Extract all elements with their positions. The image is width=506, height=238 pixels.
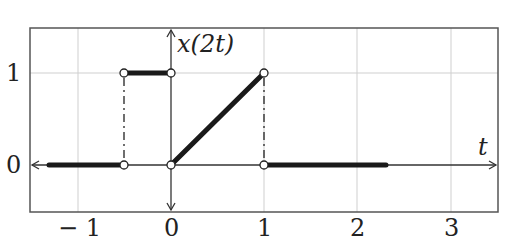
x-tick-label: 0 [164, 214, 179, 238]
chart: − 1 0 1 2 3 0 1 x(2t) t [0, 0, 506, 238]
x-tick-label: 3 [444, 214, 459, 238]
y-tick-label: 1 [6, 59, 21, 87]
signal-segments [49, 73, 386, 165]
x-tick-label: 2 [350, 214, 365, 238]
y-axis-label: x(2t) [177, 30, 234, 58]
open-endpoints [120, 69, 268, 169]
x-tick-label: 1 [257, 214, 272, 238]
y-tick-label: 0 [6, 151, 21, 179]
x-tick-label: − 1 [58, 214, 101, 238]
x-axis-label: t [478, 133, 488, 161]
